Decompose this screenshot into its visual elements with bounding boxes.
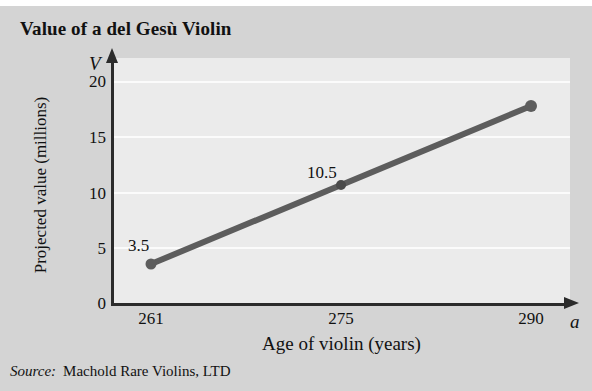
x-tick-label: 275: [301, 309, 381, 329]
y-axis-title: Projected value (millions): [31, 65, 51, 305]
point-label-275: 10.5: [307, 163, 337, 183]
y-tick-label: 5: [66, 239, 106, 259]
x-axis-title: Age of violin (years): [113, 333, 570, 355]
figure-container: Value of a del Gesù Violin 3.5 10.5 V a …: [0, 0, 592, 391]
y-tick-label: 20: [66, 72, 106, 92]
x-axis-line: [111, 303, 566, 306]
data-series: [113, 58, 570, 304]
point-label-261: 3.5: [128, 236, 149, 256]
y-tick-label: 0: [66, 294, 106, 314]
y-tick-label: 10: [66, 184, 106, 204]
x-axis-arrow-icon: [564, 297, 579, 309]
x-tick-label: 290: [491, 309, 571, 329]
source-line: Source:Machold Rare Violins, LTD: [10, 363, 231, 380]
y-axis-arrow-icon: [106, 48, 118, 63]
source-text: Machold Rare Violins, LTD: [63, 363, 230, 379]
x-tick-label: 261: [111, 309, 191, 329]
y-axis-ticks: 20 15 10 5 0: [58, 0, 106, 391]
x-axis-variable: a: [570, 311, 580, 333]
y-tick-label: 15: [66, 128, 106, 148]
source-label: Source:: [10, 363, 56, 379]
y-axis-line: [111, 62, 114, 305]
chart-title: Value of a del Gesù Violin: [20, 18, 231, 40]
